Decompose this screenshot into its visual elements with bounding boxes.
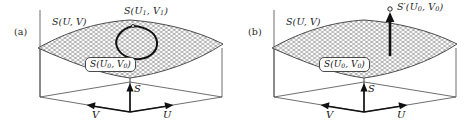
panel-b-axis-label-v: V	[326, 110, 333, 120]
panel-a-boxed-tail: )	[127, 59, 131, 69]
axis-s-arrow	[126, 83, 133, 112]
panel-b-axis-label-s: S	[368, 84, 375, 94]
panel-a-boxed-label: S(U0, V0)	[85, 57, 136, 72]
panel-b-boxed-head: S(U	[324, 59, 341, 69]
panel-b-tag: (b)	[248, 27, 262, 37]
cycle-start-marker	[132, 25, 135, 28]
panel-a-point-mid: , V	[147, 5, 160, 16]
panel-a: (a) S(U, V) S(U1, V1) S(U0, V0) S V U	[0, 0, 233, 125]
off-surface-point-marker	[388, 7, 392, 11]
panel-a-tag: (a)	[14, 27, 27, 37]
panel-b-boxed-label: S(U0, V0)	[319, 57, 370, 72]
figure-two-panel-entropy-surfaces: (a) S(U, V) S(U1, V1) S(U0, V0) S V U	[0, 0, 467, 125]
panel-a-point-label: S(U1, V1)	[124, 6, 168, 17]
panel-b-axis-label-u: U	[397, 110, 406, 120]
axis-s-arrow	[360, 83, 367, 112]
panel-b-point-label: S′(U0, V0)	[397, 2, 443, 13]
panel-a-axis-label-v: V	[92, 110, 99, 120]
panel-b-point-tail: )	[439, 1, 443, 12]
panel-b-surface-label: S(U, V)	[286, 17, 321, 27]
panel-b-boxed-tail: )	[361, 59, 365, 69]
panel-b: (b) S(U, V) S′(U0, V0) S(U0, V0) S V U	[234, 0, 467, 125]
panel-a-surface-label: S(U, V)	[52, 17, 87, 27]
panel-b-boxed-mid: , V	[345, 59, 357, 69]
panel-a-axis-label-u: U	[163, 110, 172, 120]
panel-a-axis-label-s: S	[134, 84, 141, 94]
panel-b-point-head: S′(U	[397, 1, 418, 12]
panel-a-point-tail: )	[164, 5, 168, 16]
panel-a-point-head: S(U	[124, 5, 143, 16]
panel-b-point-mid: , V	[422, 1, 435, 12]
panel-a-boxed-mid: , V	[111, 59, 123, 69]
panel-a-boxed-head: S(U	[90, 59, 107, 69]
